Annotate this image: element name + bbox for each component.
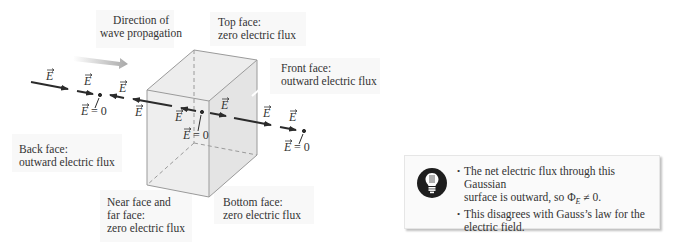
e-zero-label: = 0 bbox=[193, 128, 209, 142]
back-face-label: Back face: outward electric flux bbox=[19, 143, 115, 169]
top-face-label: Top face: zero electric flux bbox=[218, 16, 296, 42]
e-zero-label: = 0 bbox=[91, 104, 107, 118]
front-face-label: Front face: outward electric flux bbox=[281, 62, 377, 88]
bottom-face-label: Bottom face: zero electric flux bbox=[223, 196, 301, 222]
insight-note: The net electric flux through this Gauss… bbox=[404, 155, 660, 229]
e-arrow-left-pointing bbox=[110, 95, 124, 98]
e-arrow-near-left bbox=[77, 91, 93, 94]
wave-direction-label: Direction of wave propagation bbox=[100, 14, 182, 40]
note-bullets: The net electric flux through this Gauss… bbox=[457, 165, 659, 234]
note-bullet: This disagrees with Gauss’s law for the … bbox=[457, 208, 659, 234]
e-arrow-outgoing bbox=[280, 127, 296, 130]
lightbulb-icon bbox=[417, 168, 447, 198]
propagation-arrow-icon bbox=[73, 56, 128, 69]
gaussian-cube bbox=[147, 50, 268, 197]
note-bullet: The net electric flux through this Gauss… bbox=[457, 165, 659, 208]
e-zero-label: = 0 bbox=[294, 140, 310, 154]
e-arrow-incoming bbox=[31, 82, 68, 89]
near-far-face-label: Near face and far face: zero electric fl… bbox=[107, 196, 185, 235]
